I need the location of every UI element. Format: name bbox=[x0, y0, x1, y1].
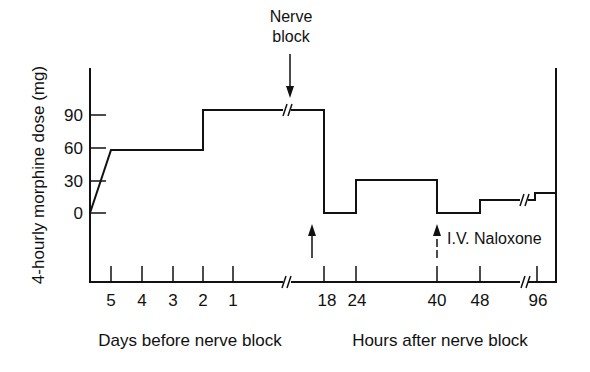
x-tick-hour-48: 48 bbox=[471, 291, 490, 310]
arrow-up-icon bbox=[433, 224, 441, 236]
x-tick-hour-24: 24 bbox=[348, 291, 367, 310]
y-tick-30: 30 bbox=[64, 172, 83, 191]
up-arrow-before-18 bbox=[308, 224, 316, 258]
y-ticks bbox=[90, 115, 106, 213]
x-tick-day-1: 1 bbox=[228, 291, 237, 310]
y-tick-labels: 90 60 30 0 bbox=[64, 106, 83, 223]
x-axis-title-hours: Hours after nerve block bbox=[352, 331, 528, 350]
x-tick-day-3: 3 bbox=[168, 291, 177, 310]
dose-series bbox=[90, 110, 556, 213]
dose-step-line-3 bbox=[528, 193, 556, 200]
x-axis-break-2 bbox=[521, 276, 530, 288]
x-tick-day-4: 4 bbox=[137, 291, 146, 310]
x-tick-labels: 5 4 3 2 1 18 24 40 48 96 bbox=[106, 291, 547, 310]
y-tick-90: 90 bbox=[64, 106, 83, 125]
naloxone-label: I.V. Naloxone bbox=[447, 230, 542, 247]
nerve-block-label-line1: Nerve bbox=[270, 8, 313, 25]
dose-step-line-2 bbox=[291, 110, 520, 213]
dose-step-line-1 bbox=[90, 110, 283, 213]
x-tick-hour-18: 18 bbox=[318, 291, 337, 310]
arrow-down-icon bbox=[286, 86, 294, 98]
x-ticks bbox=[111, 266, 537, 282]
y-tick-0: 0 bbox=[74, 204, 83, 223]
naloxone-annotation: I.V. Naloxone bbox=[433, 224, 542, 258]
x-tick-day-2: 2 bbox=[198, 291, 207, 310]
morphine-dose-chart: 90 60 30 0 4-hourly morphine dose (mg) 5… bbox=[0, 0, 590, 372]
nerve-block-annotation: Nerve block bbox=[270, 8, 313, 98]
nerve-block-label-line2: block bbox=[272, 28, 310, 45]
x-tick-day-5: 5 bbox=[106, 291, 115, 310]
x-tick-hour-40: 40 bbox=[428, 291, 447, 310]
data-line-break-1 bbox=[283, 104, 292, 116]
data-line-break-2 bbox=[520, 194, 529, 206]
x-axis-break-1 bbox=[282, 276, 291, 288]
x-tick-hour-96: 96 bbox=[529, 291, 548, 310]
arrow-up-icon bbox=[308, 224, 316, 236]
y-tick-60: 60 bbox=[64, 139, 83, 158]
x-axis-title-days: Days before nerve block bbox=[98, 331, 282, 350]
y-axis-title: 4-hourly morphine dose (mg) bbox=[29, 66, 48, 284]
